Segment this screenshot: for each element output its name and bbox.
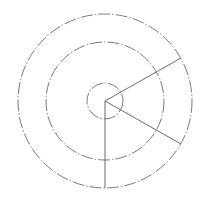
diagram-canvas [0, 0, 209, 206]
concentric-circles-diagram [0, 0, 209, 206]
